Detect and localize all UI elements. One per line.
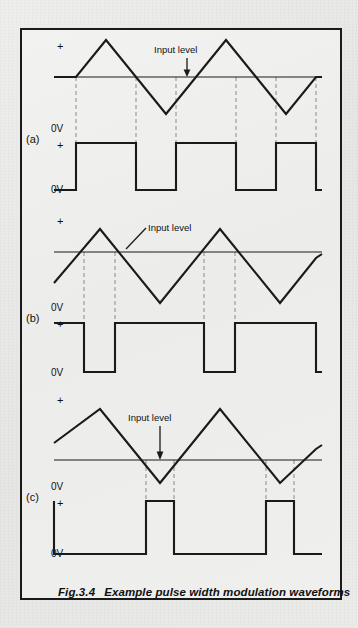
panel-a-projection-lines (76, 77, 316, 190)
panel-c-projection-lines (146, 460, 294, 500)
panel-a-output-top-label: + (57, 139, 63, 151)
panel-c-carrier-wave (54, 409, 322, 483)
panel-b-carrier-wave (54, 229, 322, 303)
figure-caption: Fig.3.4Example pulse width modulation wa… (58, 586, 350, 598)
panel-a-label: (a) (26, 133, 39, 145)
panel-b-label: (b) (26, 312, 39, 324)
panel-b-projection-lines (84, 252, 235, 372)
panel-b: + 0V (b) + 0V Input level (26, 215, 322, 378)
figure-frame: + 0V (a) + 0V Inpu (20, 28, 342, 600)
panel-c-output-top-label: + (57, 497, 63, 509)
panel-a-annotation-arrowhead (184, 70, 191, 78)
panel-b-output-wave (54, 323, 322, 372)
panel-c-label: (c) (26, 491, 39, 503)
panel-a-output-wave (54, 143, 322, 190)
panel-b-annotation-label: Input level (148, 222, 191, 233)
panel-b-output-zero-label: 0V (51, 367, 64, 378)
panel-a-carrier-zero-label: 0V (51, 123, 64, 134)
panel-c-output-wave (54, 501, 322, 554)
panel-c-carrier-top-label: + (57, 394, 63, 406)
panel-a-carrier-top-label: + (57, 40, 63, 52)
panel-b-annotation-leader (126, 228, 146, 249)
figure-page: + 0V (a) + 0V Inpu (0, 0, 358, 628)
panel-a-annotation-label: Input level (154, 44, 197, 55)
panel-a: + 0V (a) + 0V Inpu (26, 40, 322, 195)
panel-c: + 0V (c) + 0V Input level (26, 394, 322, 559)
pwm-waveform-diagram: + 0V (a) + 0V Inpu (22, 30, 339, 597)
panel-c-annotation-arrowhead (157, 452, 164, 461)
panel-c-annotation-label: Input level (128, 412, 171, 423)
panel-b-carrier-zero-label: 0V (51, 302, 64, 313)
figure-caption-number: Fig.3.4 (58, 586, 95, 598)
panel-b-carrier-top-label: + (57, 215, 63, 227)
panel-c-carrier-zero-label: 0V (51, 481, 64, 492)
figure-caption-text: Example pulse width modulation waveforms (104, 586, 350, 598)
